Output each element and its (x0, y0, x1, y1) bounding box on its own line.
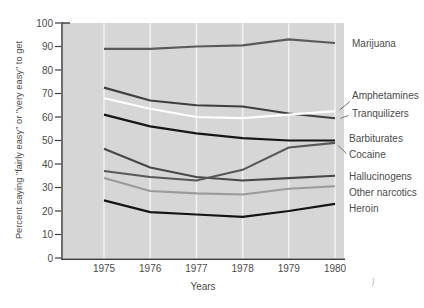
x-tick-label-1980: 1980 (324, 263, 347, 274)
y-tick-label-20: 20 (42, 206, 54, 217)
series-label-hallucinogens: Hallucinogens (349, 171, 412, 182)
y-axis-title: Percent saying "fairly easy" or "very ea… (14, 40, 24, 239)
series-label-tranquilizers: Tranquilizers (352, 108, 409, 119)
series-label-marijuana: Marijuana (352, 38, 396, 49)
x-tick-label-1977: 1977 (185, 263, 208, 274)
y-tick-label-30: 30 (42, 182, 54, 193)
series-label-cocaine: Cocaine (349, 149, 386, 160)
series-label-barbiturates: Barbiturates (349, 133, 403, 144)
y-tick-label-0: 0 (47, 253, 53, 264)
y-tick-label-60: 60 (42, 112, 54, 123)
y-tick-label-90: 90 (42, 41, 54, 52)
chart-canvas: 0102030405060708090100197519761977197819… (0, 0, 424, 308)
series-label-amphetamines: Amphetamines (352, 90, 419, 101)
availability-line-chart: 0102030405060708090100197519761977197819… (0, 0, 424, 308)
y-tick-label-10: 10 (42, 229, 54, 240)
y-tick-label-40: 40 (42, 159, 54, 170)
y-tick-label-50: 50 (42, 135, 54, 146)
series-label-other-narcotics: Other narcotics (349, 187, 417, 198)
series-label-heroin: Heroin (349, 203, 378, 214)
x-tick-label-1978: 1978 (231, 263, 254, 274)
print-artifact (372, 278, 374, 286)
y-tick-label-100: 100 (36, 18, 53, 29)
y-tick-label-70: 70 (42, 88, 54, 99)
x-tick-label-1976: 1976 (139, 263, 162, 274)
x-tick-label-1979: 1979 (278, 263, 301, 274)
y-tick-label-80: 80 (42, 65, 54, 76)
x-axis-title: Years (190, 281, 215, 292)
x-tick-label-1975: 1975 (93, 263, 116, 274)
